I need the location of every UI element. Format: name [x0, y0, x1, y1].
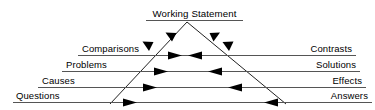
level-3-arrow-left	[123, 99, 137, 107]
level-3-right-label: Answers	[331, 90, 368, 101]
level-3-left-label: Questions	[16, 90, 60, 101]
level-2-right-label: Effects	[332, 75, 362, 86]
level-2-left-label: Causes	[42, 75, 75, 86]
apex-label: Working Statement	[153, 8, 237, 19]
triangle-diagram-svg: Working Statement Comparisons Contrasts …	[0, 0, 375, 110]
level-0-arrow-right	[188, 52, 202, 60]
diagram-canvas: Working Statement Comparisons Contrasts …	[0, 0, 375, 110]
triangle-right-arrow-upper	[210, 33, 221, 42]
level-2-arrow-right	[228, 84, 242, 92]
triangle-right-side	[187, 22, 286, 104]
level-3-arrow-right	[264, 99, 278, 107]
level-1-left-label: Problems	[66, 59, 107, 70]
level-0-left-label: Comparisons	[82, 43, 139, 54]
level-1-right-label: Solutions	[316, 59, 356, 70]
level-1-arrow-right	[208, 68, 222, 76]
triangle-left-arrow-lower	[143, 42, 154, 52]
triangle-right-arrow-lower	[223, 42, 234, 52]
level-0-arrow-left	[168, 52, 182, 60]
level-2-arrow-left	[143, 84, 157, 92]
level-1-arrow-left	[154, 68, 168, 76]
level-0-right-label: Contrasts	[310, 43, 352, 54]
triangle-left-arrow-upper	[166, 33, 177, 42]
